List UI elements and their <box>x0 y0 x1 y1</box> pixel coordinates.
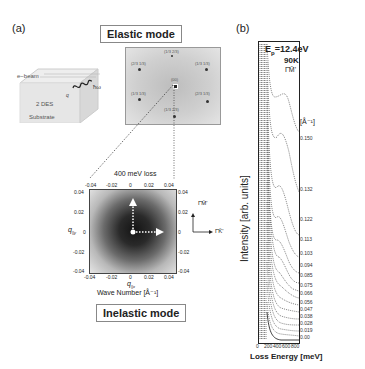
panel-b-label: (b) <box>236 22 249 34</box>
q-label: 0.028 <box>300 320 313 326</box>
x-tick: 200 <box>264 343 272 349</box>
x-tick: 400 <box>273 343 281 349</box>
q-label: 0.103 <box>300 250 313 256</box>
map-right-tick: 0.02 <box>178 209 188 215</box>
wave-number-caption: Wave Number [Å⁻¹] <box>97 289 158 297</box>
map-right-tick: -0.02 <box>178 249 189 255</box>
map-left-tick: 0.04 <box>74 189 84 195</box>
x-tick: 600 <box>282 343 290 349</box>
momentum-map <box>89 189 177 274</box>
map-right-tick: 0 <box>178 229 181 235</box>
map-bottom-tick: 0.04 <box>164 274 174 280</box>
map-top-tick: 0 <box>129 182 132 188</box>
map-left-tick: 0.02 <box>74 209 84 215</box>
q-label: 0.113 <box>300 236 312 242</box>
q-label: 0.075 <box>300 282 313 288</box>
map-ylabel: q||y <box>68 226 76 235</box>
q-label: 0.122 <box>300 216 313 222</box>
x-tick: 0 <box>256 343 259 349</box>
direction-gm-label: Γ̄M̄' <box>198 200 207 206</box>
eels-xlabel: Loss Energy [meV] <box>250 352 322 361</box>
map-left-tick: -0.04 <box>73 268 84 274</box>
map-right-tick: 0.04 <box>178 189 188 195</box>
x-tick: 800 <box>291 343 299 349</box>
q-label: 0.085 <box>300 272 313 278</box>
q-label: 0.132 <box>300 186 313 192</box>
map-top-tick: -0.02 <box>106 182 117 188</box>
temperature-annotation: 90K <box>284 56 299 65</box>
ep-annotation: Ep=12.4eV <box>265 44 308 56</box>
eels-spectra-plot <box>258 41 300 344</box>
map-right-tick: -0.04 <box>178 268 189 274</box>
map-top-tick: -0.04 <box>85 182 96 188</box>
map-title: 400 meV loss <box>114 170 156 177</box>
q-label: 0.019 <box>300 327 313 333</box>
map-xlabel: q||x <box>127 280 135 289</box>
direction-axes-icon <box>190 212 218 234</box>
map-left-tick: -0.02 <box>73 249 84 255</box>
direction-annotation: Γ̄M̄' <box>285 66 296 73</box>
map-top-tick: 0.02 <box>144 182 154 188</box>
q-label: 0.150 <box>300 135 313 141</box>
q-label: 0.056 <box>300 299 313 305</box>
units-label: [Å⁻¹] <box>300 118 315 126</box>
q-label: 0.047 <box>300 306 313 312</box>
q-label: 0.066 <box>300 290 313 296</box>
map-bottom-tick: -0.04 <box>84 274 95 280</box>
q-label: 0.094 <box>300 262 313 268</box>
eels-ylabel: Intensity [arb. units] <box>239 175 250 262</box>
direction-gk-label: Γ̄K̄' <box>215 228 223 234</box>
map-top-tick: 0.04 <box>164 182 174 188</box>
q-label: 0.038 <box>300 313 313 319</box>
q-label: 0.00 <box>300 334 310 340</box>
map-left-tick: 0 <box>83 229 86 235</box>
map-bottom-tick: 0.02 <box>144 274 154 280</box>
inelastic-mode-label: Inelastic mode <box>96 304 186 322</box>
map-bottom-tick: -0.02 <box>106 274 117 280</box>
